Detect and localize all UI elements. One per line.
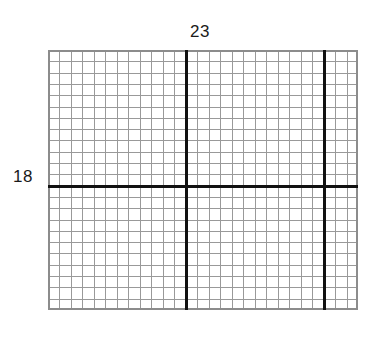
left-dimension-label: 18	[4, 167, 42, 187]
grid-outer-border	[49, 51, 357, 309]
grid-svg	[48, 50, 358, 310]
top-dimension-label: 23	[160, 22, 240, 42]
grid-area	[48, 50, 358, 310]
grid-figure: 23 18	[0, 0, 384, 338]
minor-gridlines	[48, 50, 358, 310]
grid-border	[49, 51, 357, 309]
